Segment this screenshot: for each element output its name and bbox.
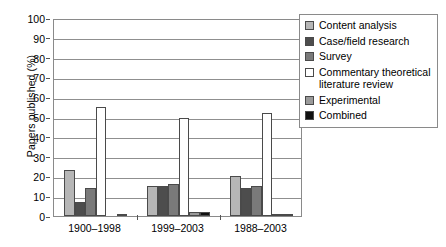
y-tick-mark	[46, 58, 50, 59]
y-tick-mark	[46, 217, 50, 218]
legend-item[interactable]: Survey	[305, 50, 433, 63]
x-axis-separator	[137, 215, 138, 220]
x-tick-label: 1988–2003	[234, 222, 287, 234]
x-axis-separators	[54, 20, 301, 216]
legend-item[interactable]: Case/field research	[305, 35, 433, 48]
y-tick-mark	[46, 137, 50, 138]
y-tick-mark	[46, 197, 50, 198]
y-tick-label: 40	[33, 133, 45, 143]
legend-label: Survey	[319, 50, 352, 63]
legend-swatch-icon	[305, 111, 314, 120]
plot-area	[53, 19, 302, 217]
y-tick-mark	[46, 19, 50, 20]
y-tick-label: 10	[33, 192, 45, 202]
y-tick-label: 60	[33, 93, 45, 103]
x-axis-separator	[220, 215, 221, 220]
y-tick-label: 80	[33, 54, 45, 64]
bar-chart-figure: Papers published (%) 0102030405060708090…	[0, 0, 446, 247]
chart-legend: Content analysisCase/field researchSurve…	[299, 14, 438, 128]
legend-swatch-icon	[305, 96, 314, 105]
legend-item[interactable]: Commentary theoretical literature review	[305, 66, 433, 91]
y-tick-label: 90	[33, 34, 45, 44]
y-tick-mark	[46, 157, 50, 158]
y-tick-mark	[46, 78, 50, 79]
legend-swatch-icon	[305, 52, 314, 61]
legend-item[interactable]: Content analysis	[305, 19, 433, 32]
y-tick-mark	[46, 177, 50, 178]
y-tick-label: 20	[33, 172, 45, 182]
legend-label: Commentary theoretical literature review	[319, 66, 430, 91]
y-tick-mark	[46, 118, 50, 119]
y-tick-label: 0	[39, 212, 45, 222]
legend-label: Combined	[319, 109, 367, 122]
y-axis-tick-labels: 0102030405060708090100	[20, 19, 50, 217]
legend-item[interactable]: Combined	[305, 109, 433, 122]
y-tick-mark	[46, 98, 50, 99]
y-tick-mark	[46, 38, 50, 39]
y-tick-label: 70	[33, 73, 45, 83]
legend-label: Content analysis	[319, 19, 397, 32]
x-tick-label: 1999–2003	[151, 222, 204, 234]
x-axis-tick-labels: 1900–19981999–20031988–2003	[53, 222, 302, 238]
legend-swatch-icon	[305, 21, 314, 30]
y-tick-label: 30	[33, 153, 45, 163]
legend-item[interactable]: Experimental	[305, 94, 433, 107]
legend-swatch-icon	[305, 37, 314, 46]
legend-label: Experimental	[319, 94, 380, 107]
y-tick-label: 100	[27, 14, 45, 24]
y-tick-label: 50	[33, 113, 45, 123]
x-tick-label: 1900–1998	[68, 222, 121, 234]
legend-swatch-icon	[305, 68, 314, 77]
legend-label: Case/field research	[319, 35, 409, 48]
